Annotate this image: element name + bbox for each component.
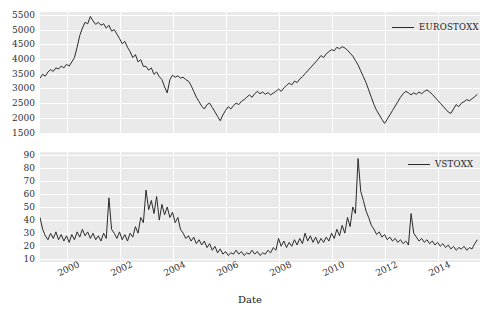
- y-tick-label: 4500: [0, 40, 35, 49]
- y-tick-label: 40: [0, 216, 35, 225]
- y-tick-label: 20: [0, 242, 35, 251]
- y-tick-label: 10: [0, 255, 35, 264]
- x-tick-label: 2008: [268, 259, 293, 278]
- x-tick-label: 2014: [427, 259, 452, 278]
- x-tick-label: 2006: [215, 259, 240, 278]
- legend-eurostoxx: EUROSTOXX: [392, 22, 479, 32]
- x-tick-label: 2012: [374, 259, 399, 278]
- x-tick-label: 2002: [109, 259, 134, 278]
- y-tick-label: 5500: [0, 11, 35, 20]
- y-tick-label: 5000: [0, 26, 35, 35]
- y-tick-label: 30: [0, 229, 35, 238]
- x-tick-label: 2004: [162, 259, 187, 278]
- y-tick-label: 2500: [0, 99, 35, 108]
- y-tick-label: 2000: [0, 114, 35, 123]
- x-axis-label: Date: [200, 294, 300, 305]
- y-tick-label: 80: [0, 164, 35, 173]
- y-tick-label: 1500: [0, 129, 35, 138]
- chart-figure: 150020002500300035004000450050005500 EUR…: [0, 0, 495, 312]
- legend-label-eurostoxx: EUROSTOXX: [419, 22, 479, 32]
- legend-vstoxx: VSTOXX: [408, 159, 473, 169]
- panel-eurostoxx: 150020002500300035004000450050005500 EUR…: [0, 0, 495, 140]
- legend-line-icon: [392, 27, 414, 28]
- y-tick-label: 60: [0, 190, 35, 199]
- y-tick-label: 50: [0, 203, 35, 212]
- y-tick-label: 3500: [0, 70, 35, 79]
- y-tick-label: 4000: [0, 55, 35, 64]
- panel-vstoxx: 102030405060708090 200020022004200620082…: [0, 148, 495, 312]
- x-tick-label: 2010: [321, 259, 346, 278]
- y-tick-label: 3000: [0, 84, 35, 93]
- legend-label-vstoxx: VSTOXX: [435, 159, 473, 169]
- y-tick-label: 70: [0, 177, 35, 186]
- x-tick-label: 2000: [56, 259, 81, 278]
- legend-line-icon: [408, 164, 430, 165]
- y-tick-label: 90: [0, 151, 35, 160]
